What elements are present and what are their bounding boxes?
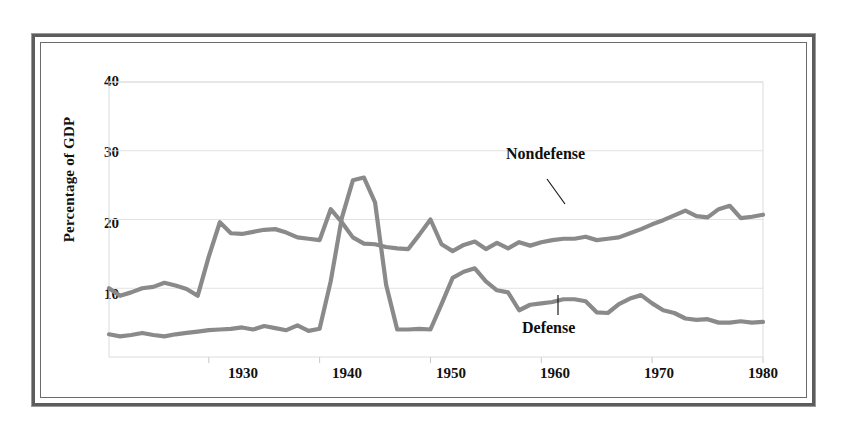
- nondefense-leader-line: [547, 179, 565, 204]
- figure-inner-frame: Percentage of GDP 40 30 20 10 1930 1940 …: [40, 42, 807, 398]
- chart-series-group: [109, 178, 763, 337]
- figure-root: Percentage of GDP 40 30 20 10 1930 1940 …: [0, 0, 850, 442]
- series-label-defense: Defense: [522, 319, 575, 337]
- series-label-nondefense: Nondefense: [506, 145, 585, 163]
- chart-canvas: [41, 43, 824, 415]
- annotation-leader-lines: [547, 179, 565, 315]
- figure-outer-frame: Percentage of GDP 40 30 20 10 1930 1940 …: [32, 34, 815, 406]
- chart-plot-stage: Percentage of GDP 40 30 20 10 1930 1940 …: [41, 43, 824, 415]
